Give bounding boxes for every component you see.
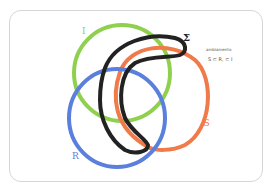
label-r: R <box>72 152 79 161</box>
ring-sigma <box>100 36 185 152</box>
label-i: I <box>82 27 86 36</box>
linked-rings-diagram <box>0 0 272 189</box>
note-line2: S ⊂ R, ⊂ I <box>208 57 232 63</box>
label-s: S <box>203 118 210 128</box>
note-line1: ambiamento <box>206 48 231 52</box>
label-sigma: Σ <box>183 33 190 43</box>
